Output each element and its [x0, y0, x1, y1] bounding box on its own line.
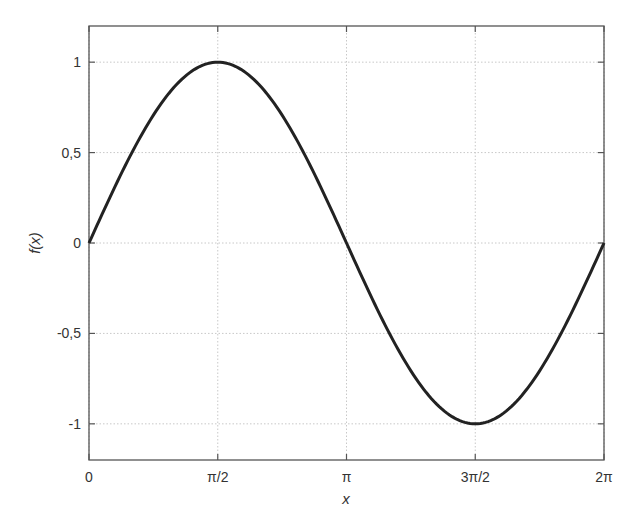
x-axis-label: x	[341, 490, 350, 507]
x-tick-label: 0	[85, 469, 93, 485]
x-tick-label: 2π	[595, 469, 613, 485]
y-tick-label: 1	[73, 54, 81, 70]
y-axis-label: f(x)	[26, 232, 43, 254]
sine-chart: 0π/2π3π/22π 10,50-0,5-1 x f(x)	[0, 0, 637, 528]
y-tick-label: 0	[73, 235, 81, 251]
x-tick-labels: 0π/2π3π/22π	[85, 469, 613, 485]
y-tick-label: -0,5	[57, 325, 81, 341]
y-tick-label: 0,5	[62, 145, 82, 161]
x-tick-label: 3π/2	[461, 469, 490, 485]
y-tick-label: -1	[69, 416, 82, 432]
x-tick-label: π	[342, 469, 352, 485]
x-tick-label: π/2	[207, 469, 229, 485]
y-tick-labels: 10,50-0,5-1	[57, 54, 81, 432]
